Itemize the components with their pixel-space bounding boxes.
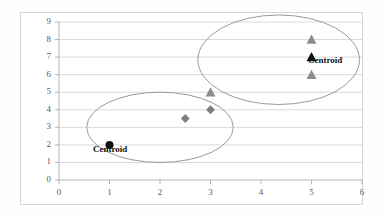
y-tick-label: 3 <box>37 122 51 131</box>
y-tick-label: 1 <box>37 157 51 166</box>
y-tick-label: 7 <box>37 52 51 61</box>
x-tick-label: 1 <box>102 188 118 197</box>
axis-ticks <box>55 22 362 184</box>
y-tick-label: 8 <box>37 35 51 44</box>
y-tick-label: 5 <box>37 87 51 96</box>
y-tick-label: 4 <box>37 105 51 114</box>
data-point-diamond <box>206 105 215 114</box>
x-tick-label: 5 <box>304 188 320 197</box>
y-tick-label: 0 <box>37 175 51 184</box>
y-tick-label: 9 <box>37 17 51 26</box>
cluster-ellipses <box>87 15 360 162</box>
x-tick-label: 3 <box>203 188 219 197</box>
centroid-label-left: Centroid <box>93 145 127 154</box>
centroid-label-right: Centroid <box>308 56 342 65</box>
y-tick-label: 2 <box>37 140 51 149</box>
scatter-chart: 0123456 0123456789 Centroid Centroid <box>0 0 387 219</box>
x-tick-label: 2 <box>152 188 168 197</box>
data-point-diamond <box>181 114 190 123</box>
x-tick-label: 4 <box>253 188 269 197</box>
x-tick-label: 6 <box>354 188 370 197</box>
x-tick-label: 0 <box>51 188 67 197</box>
y-tick-label: 6 <box>37 70 51 79</box>
